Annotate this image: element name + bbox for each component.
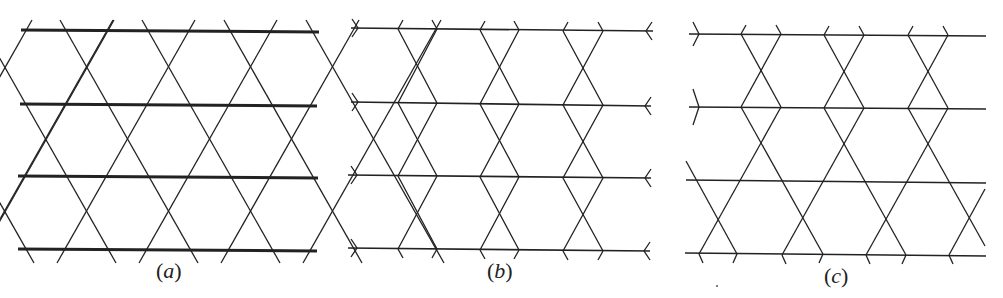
panel-c-horizontal-lines bbox=[685, 34, 986, 256]
panel-c-chevrons bbox=[693, 22, 953, 264]
lattice-figure bbox=[0, 0, 1003, 298]
panel-b-diagram bbox=[348, 19, 653, 260]
panel-b-chevrons bbox=[351, 19, 652, 260]
panel-a-horizontal-lines bbox=[18, 30, 319, 251]
panel-b-label-close: ) bbox=[505, 258, 512, 283]
panel-c-upper-bowties bbox=[741, 34, 948, 108]
panel-a-label-close: ) bbox=[174, 258, 181, 283]
panel-a-diagonal-lines bbox=[0, 20, 444, 263]
panel-b-label-letter: b bbox=[494, 258, 505, 283]
panel-c-label-close: ) bbox=[841, 263, 848, 288]
panel-b-label: (b) bbox=[487, 258, 513, 284]
panel-a-label-letter: a bbox=[163, 258, 174, 283]
panel-b-bowtie-column-3 bbox=[563, 31, 603, 251]
panel-c-diagram bbox=[685, 22, 986, 264]
panel-a-label: (a) bbox=[156, 258, 182, 284]
panel-b-bowtie-column-2 bbox=[480, 30, 519, 250]
panel-c-label: (c) bbox=[824, 263, 848, 289]
stray-dot bbox=[716, 285, 718, 287]
panel-c-label-letter: c bbox=[831, 263, 841, 288]
panel-a-diagram bbox=[0, 20, 444, 263]
